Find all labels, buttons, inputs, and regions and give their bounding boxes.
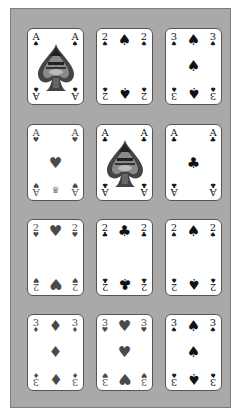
rank-label: A <box>32 92 39 101</box>
spades-icon: ♠ <box>117 85 133 100</box>
hearts-icon: ♥ <box>48 156 64 171</box>
rank-label: A <box>32 188 39 197</box>
hearts-icon: ♥ <box>33 232 39 239</box>
spades-icon: ♠ <box>171 371 177 378</box>
diamonds-icon: ♦ <box>48 371 64 386</box>
rank-label: 3 <box>141 378 147 387</box>
hearts-icon: ♥ <box>72 276 78 283</box>
rank-label: 3 <box>171 92 177 101</box>
spades-icon: ♠ <box>186 85 202 100</box>
corner-index: 2♥ <box>31 223 41 239</box>
spades-icon: ♠ <box>141 85 147 92</box>
spades-icon: ♠ <box>210 276 216 283</box>
rank-label: 3 <box>171 378 177 387</box>
playing-card-3-of-diamonds[interactable]: 3♦3♦3♦3♦♦♦♦ <box>27 314 84 391</box>
playing-card-3-of-spades[interactable]: 3♠3♠3♠3♠♠♠♠ <box>165 28 222 105</box>
playing-card-a-of-hearts[interactable]: A♥A♥A♥A♥♥♛ <box>27 124 84 201</box>
rank-label: 2 <box>33 283 39 292</box>
playing-card-3-of-hearts[interactable]: 3♥3♥3♥3♥♥♥♥ <box>96 314 153 391</box>
corner-index: 3♠ <box>169 85 179 101</box>
corner-index: 2♥ <box>70 223 80 239</box>
clubs-icon: ♣ <box>210 137 216 144</box>
clubs-icon: ♣ <box>171 181 177 188</box>
hearts-icon: ♥ <box>48 224 64 239</box>
spades-icon: ♠ <box>186 345 202 360</box>
rank-label: A <box>170 188 177 197</box>
corner-index: 2♠ <box>169 276 179 292</box>
hearts-icon: ♥ <box>33 137 39 144</box>
corner-index: 3♠ <box>169 371 179 387</box>
corner-index: A♥ <box>70 181 80 197</box>
hearts-icon: ♥ <box>102 327 108 334</box>
corner-index: 3♥ <box>100 318 110 334</box>
playing-card-3-of-spades[interactable]: 3♠3♠3♠3♠♠♠♠ <box>165 314 222 391</box>
corner-index: 3♦ <box>70 318 80 334</box>
spades-icon: ♠ <box>210 85 216 92</box>
spades-icon: ♠ <box>186 224 202 239</box>
clubs-icon: ♣ <box>117 224 133 239</box>
rank-label: A <box>71 188 78 197</box>
hearts-icon: ♥ <box>141 371 147 378</box>
diamonds-icon: ♦ <box>48 319 64 334</box>
corner-index: A♣ <box>208 181 218 197</box>
corner-index: A♥ <box>31 181 41 197</box>
corner-index: 2♠ <box>100 85 110 101</box>
hearts-icon: ♥ <box>72 232 78 239</box>
corner-index: 2♣ <box>100 223 110 239</box>
playing-card-a-of-clubs[interactable]: A♣A♣A♣A♣ <box>96 124 153 201</box>
corner-index: 2♣ <box>139 276 149 292</box>
corner-index: 3♠ <box>208 32 218 48</box>
hearts-icon: ♥ <box>141 327 147 334</box>
corner-index: 2♠ <box>169 223 179 239</box>
spades-icon: ♠ <box>210 232 216 239</box>
rank-label: 2 <box>141 283 147 292</box>
playing-card-2-of-spades[interactable]: 2♠2♠2♠2♠♠♠ <box>96 28 153 105</box>
diamonds-icon: ♦ <box>48 345 64 360</box>
corner-index: A♥ <box>31 128 41 144</box>
spades-icon: ♠ <box>186 276 202 291</box>
hearts-icon: ♥ <box>48 276 64 291</box>
rank-label: 2 <box>102 92 108 101</box>
ornate-spade-icon <box>105 138 145 188</box>
corner-index: 3♦ <box>31 371 41 387</box>
corner-index: 2♠ <box>139 85 149 101</box>
spades-icon: ♠ <box>186 371 202 386</box>
hearts-icon: ♥ <box>72 181 78 188</box>
playing-card-a-of-clubs[interactable]: A♣A♣A♣A♣♣ <box>165 124 222 201</box>
playing-card-2-of-hearts[interactable]: 2♥2♥2♥2♥♥♥ <box>27 219 84 296</box>
corner-index: A♣ <box>169 181 179 197</box>
corner-index: 3♥ <box>139 318 149 334</box>
spades-icon: ♠ <box>186 319 202 334</box>
ornate-spade-icon <box>36 42 76 92</box>
corner-index: A♣ <box>208 128 218 144</box>
rank-label: 2 <box>141 92 147 101</box>
playing-card-2-of-clubs[interactable]: 2♣2♣2♣2♣♣♣ <box>96 219 153 296</box>
corner-index: 3♠ <box>169 318 179 334</box>
playing-card-2-of-spades[interactable]: 2♠2♠2♠2♠♠♠ <box>165 219 222 296</box>
diamonds-icon: ♦ <box>33 327 39 334</box>
rank-label: 2 <box>72 283 78 292</box>
clubs-icon: ♣ <box>117 276 133 291</box>
spades-icon: ♠ <box>117 33 133 48</box>
clubs-icon: ♣ <box>141 232 147 239</box>
spades-icon: ♠ <box>102 85 108 92</box>
corner-index: 2♥ <box>70 276 80 292</box>
hearts-icon: ♥ <box>117 319 133 334</box>
hearts-icon: ♥ <box>117 371 133 386</box>
corner-index: 3♠ <box>169 32 179 48</box>
playing-card-a-of-spades[interactable]: A♠A♠A♠A♠ <box>27 28 84 105</box>
rank-label: 2 <box>171 283 177 292</box>
diamonds-icon: ♦ <box>33 371 39 378</box>
crown-emblem-icon: ♛ <box>50 186 62 194</box>
rank-label: 2 <box>102 283 108 292</box>
hearts-icon: ♥ <box>102 371 108 378</box>
spades-icon: ♠ <box>171 276 177 283</box>
corner-index: 3♠ <box>208 318 218 334</box>
corner-index: 3♥ <box>100 371 110 387</box>
corner-index: 3♥ <box>139 371 149 387</box>
rank-label: 3 <box>210 92 216 101</box>
corner-index: 2♠ <box>208 223 218 239</box>
spades-icon: ♠ <box>102 41 108 48</box>
clubs-icon: ♣ <box>171 137 177 144</box>
corner-index: 2♣ <box>100 276 110 292</box>
